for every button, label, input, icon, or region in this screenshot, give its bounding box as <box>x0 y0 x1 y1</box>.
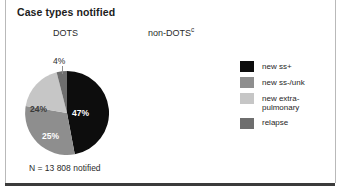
legend-label-relapse: relapse <box>262 118 288 128</box>
pie-slice-label-new-extra-pulmonary: 24% <box>30 104 47 114</box>
pie-slice-label-new-ss-unk: 25% <box>42 131 59 141</box>
panel-right-rule <box>335 0 336 183</box>
legend-swatch-new-ss-unk <box>240 77 254 88</box>
panel-bottom-rule <box>5 183 335 186</box>
pie-label-leader-line <box>62 66 63 74</box>
legend-swatch-relapse <box>240 118 254 129</box>
pie-slice-label-relapse: 4% <box>53 56 65 66</box>
chart-legend: new ss+ new ss-/unk new extra- pulmonary… <box>240 61 305 134</box>
figure-title: Case types notified <box>17 6 115 18</box>
column-header-dots: DOTS <box>53 28 78 38</box>
pie-slice-label-new-ss-plus: 47% <box>72 108 89 118</box>
column-header-non-dots: non-DOTSc <box>148 28 194 38</box>
legend-swatch-new-ss-plus <box>240 61 254 72</box>
legend-item-new-ss-unk: new ss-/unk <box>240 77 305 88</box>
column-header-non-dots-label: non-DOTS <box>148 28 191 38</box>
column-header-dots-label: DOTS <box>53 28 78 38</box>
legend-item-relapse: relapse <box>240 118 305 129</box>
legend-item-new-ss-plus: new ss+ <box>240 61 305 72</box>
legend-label-new-ss-unk: new ss-/unk <box>262 77 305 87</box>
legend-label-new-extra-pulmonary: new extra- pulmonary <box>262 93 299 113</box>
legend-item-new-extra-pulmonary: new extra- pulmonary <box>240 93 305 113</box>
figure-panel: Case types notified DOTS non-DOTSc 47% 2… <box>0 0 341 194</box>
legend-label-new-ss-plus: new ss+ <box>262 61 292 71</box>
panel-left-rule <box>5 0 6 183</box>
column-header-non-dots-footnote: c <box>191 26 194 33</box>
legend-swatch-new-extra-pulmonary <box>240 93 254 104</box>
pie-caption: N = 13 808 notified <box>29 163 101 173</box>
